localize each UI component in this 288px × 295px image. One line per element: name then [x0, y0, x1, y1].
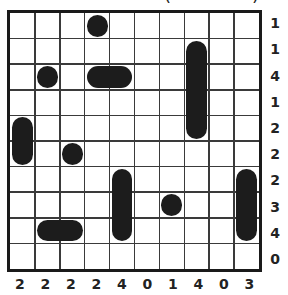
- puzzle-title-fragment: ( ): [0, 0, 288, 8]
- title-close-paren: ): [252, 0, 259, 4]
- row-clue: 2: [267, 120, 283, 136]
- row-clue: 4: [267, 68, 283, 84]
- column-clue: 1: [165, 276, 181, 292]
- grid-row-line: [10, 115, 259, 117]
- row-clue: 1: [267, 15, 283, 31]
- column-clue: 2: [37, 276, 53, 292]
- puzzle-grid[interactable]: [7, 10, 262, 272]
- ship-submarine: [87, 15, 108, 37]
- title-open-paren: (: [164, 0, 171, 4]
- column-clue: 3: [241, 276, 257, 292]
- row-clue: 4: [267, 225, 283, 241]
- column-clue: 2: [63, 276, 79, 292]
- ship-submarine: [161, 194, 182, 216]
- column-clue: 4: [114, 276, 130, 292]
- ship-segment-vertical: [112, 169, 133, 242]
- ship-submarine: [62, 143, 83, 165]
- column-clue: 0: [139, 276, 155, 292]
- column-clue: 0: [216, 276, 232, 292]
- row-clue: 2: [267, 172, 283, 188]
- row-clue: 3: [267, 199, 283, 215]
- ship-segment-vertical: [12, 117, 33, 164]
- grid-row-line: [10, 63, 259, 65]
- row-clue: 1: [267, 41, 283, 57]
- ship-segment-vertical: [236, 169, 257, 242]
- grid-row-line: [10, 140, 259, 142]
- grid-row-line: [10, 217, 259, 219]
- ship-segment-vertical: [186, 41, 207, 139]
- ship-submarine: [37, 66, 58, 88]
- row-clue: 0: [267, 251, 283, 267]
- column-clue: 4: [190, 276, 206, 292]
- ship-segment-horizontal: [87, 66, 133, 88]
- grid-row-line: [10, 166, 259, 168]
- row-clue: 2: [267, 146, 283, 162]
- ship-segment-horizontal: [37, 220, 83, 242]
- row-clue: 1: [267, 94, 283, 110]
- grid-row-line: [10, 191, 259, 193]
- column-clue: 2: [12, 276, 28, 292]
- column-clue: 2: [88, 276, 104, 292]
- grid-row-line: [10, 38, 259, 40]
- grid-row-line: [10, 243, 259, 245]
- grid-row-line: [10, 89, 259, 91]
